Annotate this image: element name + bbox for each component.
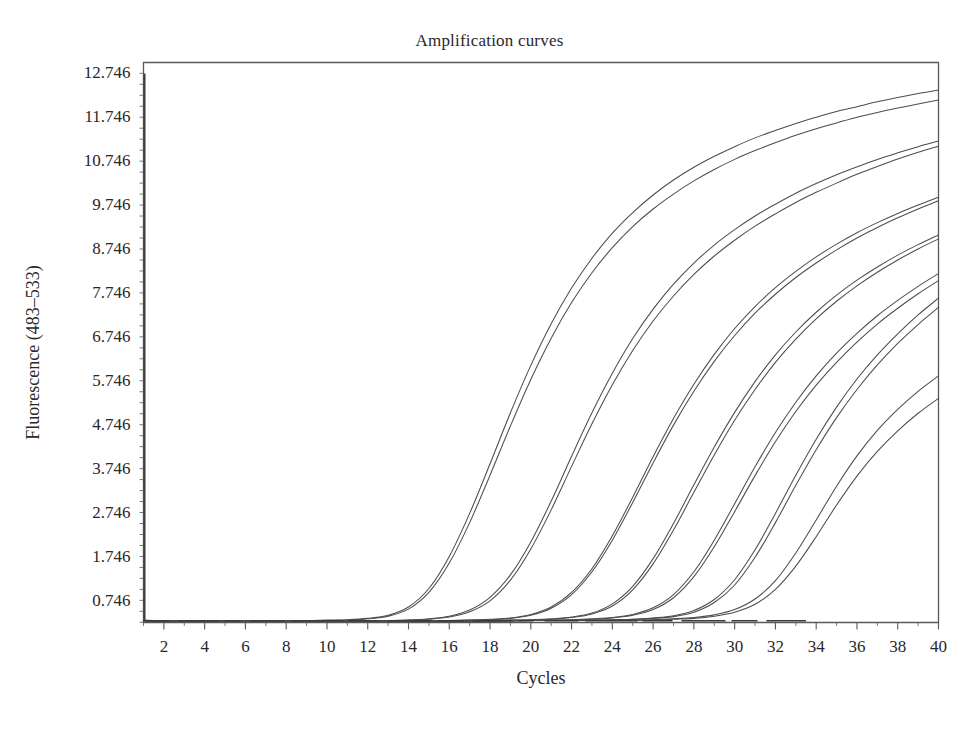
amplification-curves: [144, 90, 939, 621]
curve-sample-1a: [144, 90, 939, 621]
curve-sample-2b: [144, 146, 939, 621]
axis-ticks: [140, 73, 939, 629]
amplification-curves-figure: Amplification curves Fluorescence (483–5…: [0, 0, 979, 729]
curve-sample-1b: [144, 100, 939, 621]
plot-area: [0, 0, 979, 729]
curve-sample-6a: [144, 298, 939, 621]
curve-sample-4a: [144, 235, 939, 621]
curve-sample-5a: [144, 274, 939, 621]
curve-sample-4b: [144, 239, 939, 621]
curve-sample-7b: [144, 398, 939, 621]
curve-sample-5b: [144, 281, 939, 621]
curve-sample-6b: [144, 307, 939, 621]
axes-frame: [144, 63, 939, 623]
curve-sample-7a: [144, 376, 939, 621]
curve-sample-3b: [144, 201, 939, 621]
